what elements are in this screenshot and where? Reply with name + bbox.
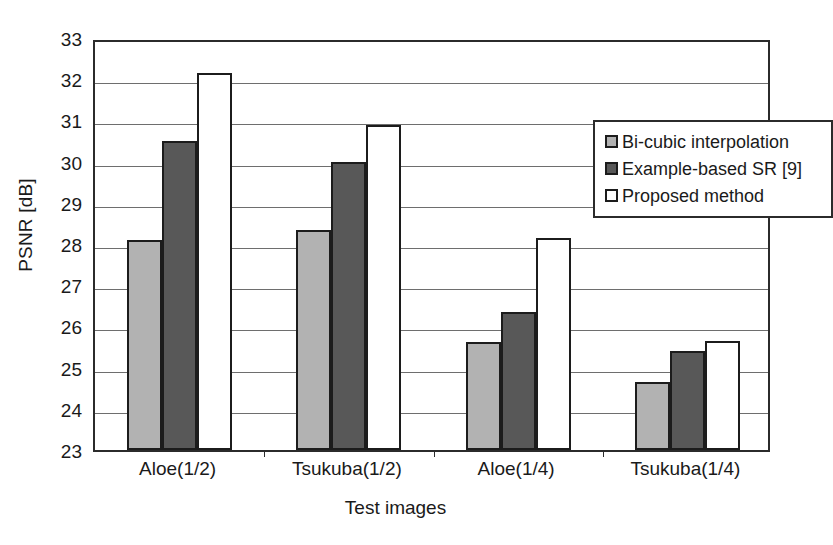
- bar: [162, 141, 197, 450]
- bar: [331, 162, 366, 450]
- plot-area: Bi-cubic interpolation Example-based SR …: [93, 40, 770, 452]
- x-axis-tick-label: Tsukuba(1/4): [601, 458, 770, 480]
- bar: [296, 230, 331, 450]
- x-axis-tick-mark: [434, 450, 435, 457]
- y-axis-tick-label: 31: [48, 112, 82, 131]
- legend-item[interactable]: Bi-cubic interpolation: [605, 128, 823, 155]
- bar: [670, 351, 705, 450]
- y-axis-tick-label: 32: [48, 71, 82, 90]
- white-swatch-icon: [605, 189, 618, 202]
- bar: [466, 342, 501, 450]
- y-axis-tick-label: 26: [48, 318, 82, 337]
- bar: [197, 73, 232, 450]
- dark-gray-swatch-icon: [605, 162, 618, 175]
- bar: [366, 125, 401, 450]
- y-axis-tick-label: 25: [48, 360, 82, 379]
- legend-item[interactable]: Proposed method: [605, 182, 823, 209]
- legend-item[interactable]: Example-based SR [9]: [605, 155, 823, 182]
- x-axis-title: Test images: [0, 497, 791, 519]
- y-axis-tick-label: 24: [48, 401, 82, 420]
- legend-item-label: Bi-cubic interpolation: [622, 133, 789, 151]
- bar: [705, 341, 740, 450]
- light-gray-swatch-icon: [605, 135, 618, 148]
- bar: [635, 382, 670, 450]
- y-axis-tick-label: 33: [48, 30, 82, 49]
- y-axis-tick-label: 27: [48, 277, 82, 296]
- y-axis-tick-label: 23: [48, 442, 82, 461]
- x-axis-tick-mark: [603, 450, 604, 457]
- legend: Bi-cubic interpolation Example-based SR …: [593, 120, 833, 218]
- legend-item-label: Proposed method: [622, 187, 764, 205]
- bar: [127, 240, 162, 450]
- x-axis-tick-label: Tsukuba(1/2): [262, 458, 431, 480]
- bar: [501, 312, 536, 450]
- legend-item-label: Example-based SR [9]: [622, 160, 802, 178]
- bar: [536, 238, 571, 450]
- x-axis-tick-label: Aloe(1/4): [432, 458, 601, 480]
- y-axis-tick-labels: 3332313029282726252423: [20, 0, 82, 545]
- x-axis-tick-label: Aloe(1/2): [93, 458, 262, 480]
- gridline: [95, 83, 768, 84]
- y-axis-tick-label: 28: [48, 236, 82, 255]
- y-axis-tick-label: 30: [48, 154, 82, 173]
- x-axis-tick-mark: [264, 450, 265, 457]
- y-axis-tick-label: 29: [48, 195, 82, 214]
